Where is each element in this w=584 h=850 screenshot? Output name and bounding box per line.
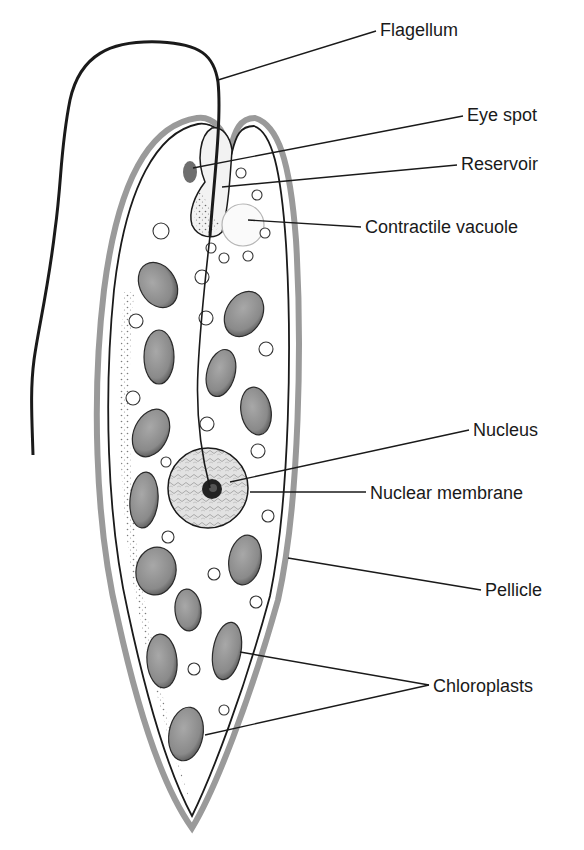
granule <box>188 663 200 675</box>
contractile-vacuole <box>222 204 264 246</box>
granule <box>208 568 220 580</box>
label-pellicle: Pellicle <box>485 581 542 599</box>
label-chloroplasts: Chloroplasts <box>433 677 533 695</box>
granule <box>262 510 274 522</box>
label-nuclear-membrane: Nuclear membrane <box>370 484 523 502</box>
granule <box>259 342 273 356</box>
granule <box>129 314 143 328</box>
label-flagellum: Flagellum <box>380 21 458 39</box>
label-reservoir: Reservoir <box>461 155 538 173</box>
granule <box>236 168 246 178</box>
granule <box>243 251 253 261</box>
granule <box>126 391 140 405</box>
granule <box>161 457 171 467</box>
label-eye-spot: Eye spot <box>467 106 537 124</box>
granule <box>195 270 209 284</box>
leader-line <box>218 31 376 80</box>
leader-line <box>288 558 481 590</box>
granule <box>162 531 174 543</box>
granule <box>260 228 270 238</box>
eye-spot <box>183 161 197 183</box>
granule <box>153 223 169 239</box>
leader-line <box>240 652 429 685</box>
chloroplast <box>144 330 174 384</box>
euglena-diagram: Flagellum Eye spot Reservoir Contractile… <box>0 0 584 850</box>
label-contractile-vacuole: Contractile vacuole <box>365 218 518 236</box>
granule <box>219 705 229 715</box>
label-nucleus: Nucleus <box>473 421 538 439</box>
granule <box>252 190 262 200</box>
granule <box>200 417 214 431</box>
granule <box>219 253 229 263</box>
nucleolus-center <box>209 484 217 492</box>
granule <box>251 444 265 458</box>
granule <box>250 596 262 608</box>
